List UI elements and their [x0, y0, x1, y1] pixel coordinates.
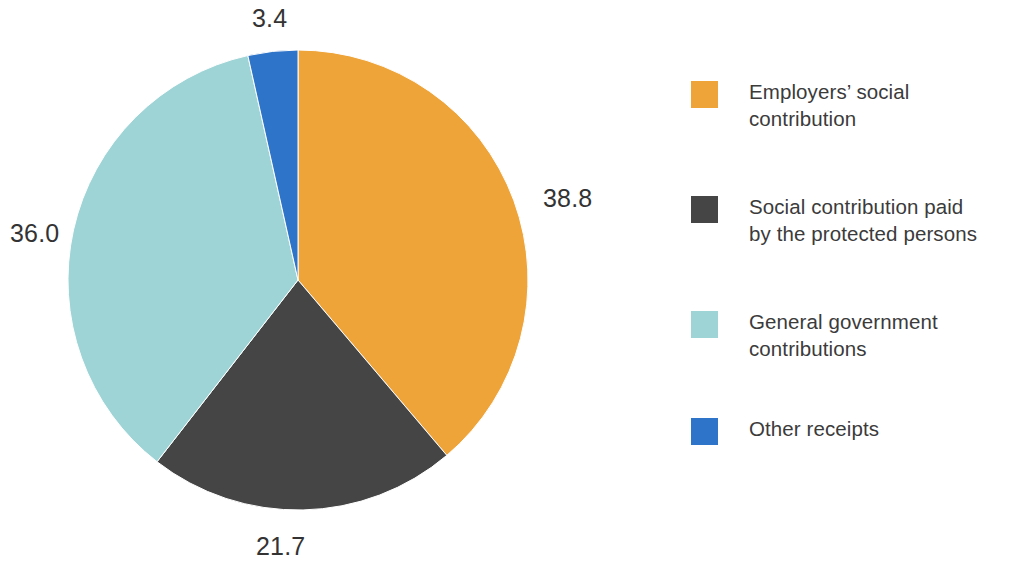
- legend-label-general-government: General government contributions: [749, 309, 938, 362]
- legend-item-protected-persons: Social contribution paid by the protecte…: [691, 194, 977, 247]
- legend-item-general-government: General government contributions: [691, 309, 938, 362]
- legend-label-protected-persons: Social contribution paid by the protecte…: [749, 194, 977, 247]
- legend-item-other-receipts: Other receipts: [691, 416, 879, 445]
- legend-swatch-employers: [691, 81, 718, 108]
- pie-data-label-protected-persons: 21.7: [256, 534, 305, 559]
- pie-chart-page: 3.4 38.8 36.0 21.7 Employers’ social con…: [0, 0, 1009, 567]
- pie-chart-graphic: [0, 0, 620, 567]
- pie-slice-group: [68, 50, 528, 510]
- chart-legend: Employers’ social contribution Social co…: [691, 66, 1009, 486]
- legend-swatch-protected-persons: [691, 196, 718, 223]
- legend-label-other-receipts: Other receipts: [749, 416, 879, 443]
- legend-swatch-other-receipts: [691, 418, 718, 445]
- pie-data-label-other-receipts: 3.4: [252, 6, 287, 31]
- legend-label-employers: Employers’ social contribution: [749, 79, 909, 132]
- pie-data-label-employers: 38.8: [543, 186, 592, 211]
- pie-chart-area: 3.4 38.8 36.0 21.7: [0, 0, 620, 567]
- legend-item-employers: Employers’ social contribution: [691, 79, 909, 132]
- pie-data-label-general-government: 36.0: [10, 221, 59, 246]
- legend-swatch-government: [691, 311, 718, 338]
